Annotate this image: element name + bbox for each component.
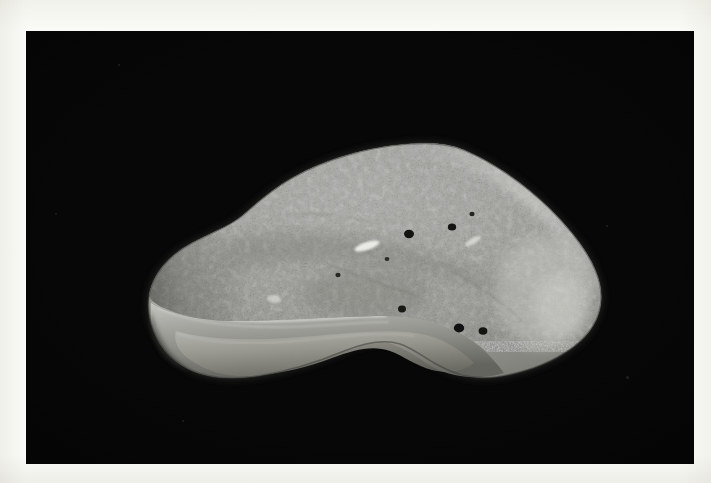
photo-caption — [26, 466, 694, 482]
dust-fleck-1 — [118, 64, 120, 66]
dust-fleck-3 — [606, 225, 608, 227]
dust-fleck-4 — [626, 376, 629, 379]
dust-fleck-2 — [55, 213, 57, 215]
scanned-page — [0, 0, 711, 483]
dust-fleck-5 — [182, 420, 184, 422]
photograph-image — [26, 31, 694, 464]
photograph-frame — [26, 31, 694, 464]
film-grain-overlay — [26, 31, 694, 464]
